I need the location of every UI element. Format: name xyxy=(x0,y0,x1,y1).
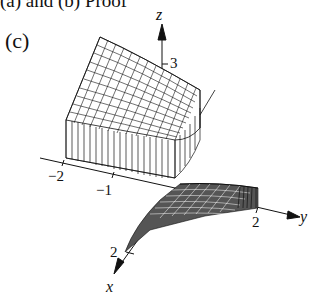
y-axis-arrow xyxy=(287,211,300,219)
lower-surface xyxy=(125,184,258,253)
surface-plot xyxy=(0,0,312,299)
y-tick-2: 2 xyxy=(252,214,260,231)
upper-surface xyxy=(66,37,215,178)
z-tick-3: 3 xyxy=(170,55,178,72)
z-axis-arrow xyxy=(158,24,166,40)
z-axis-label: z xyxy=(156,6,162,24)
neg-tick-1: −1 xyxy=(96,182,112,199)
x-tick-2: 2 xyxy=(110,244,118,261)
y-axis-label: y xyxy=(300,208,307,226)
neg-tick-2: −2 xyxy=(48,168,64,185)
x-axis-label: x xyxy=(106,278,113,296)
